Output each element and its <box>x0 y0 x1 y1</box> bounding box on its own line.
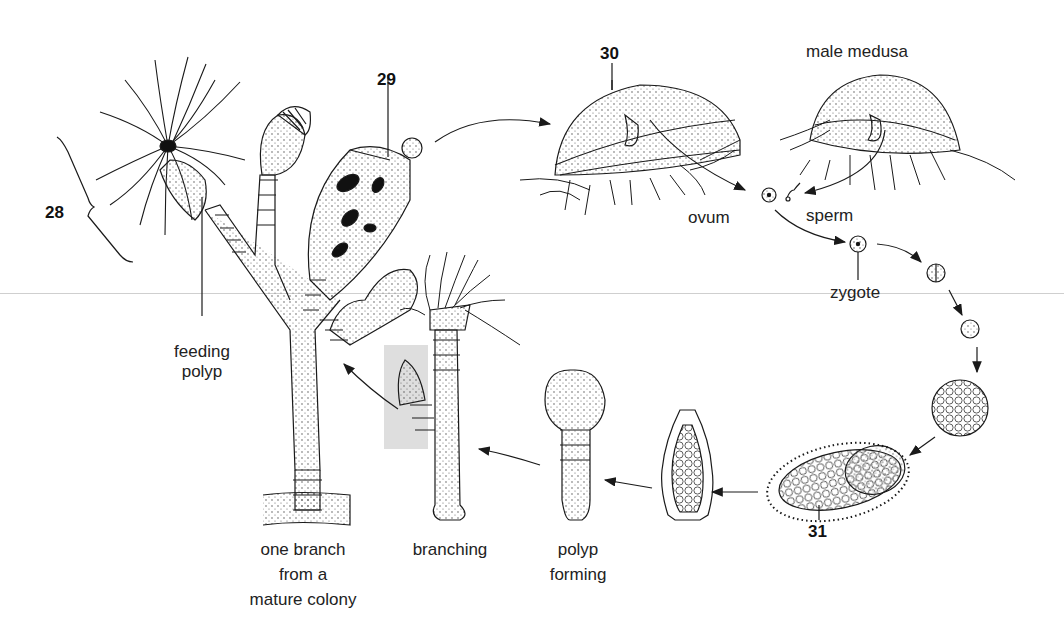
label-zygote: zygote <box>830 283 880 303</box>
planula-larva <box>760 431 916 533</box>
feeding-polyp-line2: polyp <box>166 362 238 382</box>
label-sperm: sperm <box>806 206 853 226</box>
arrow-to-medusa <box>435 120 550 142</box>
upper-hydrotheca <box>257 107 310 225</box>
bracket-28 <box>57 137 133 262</box>
arrow-to-planula <box>910 437 935 455</box>
label-31: 31 <box>808 522 827 542</box>
label-ovum: ovum <box>688 208 730 228</box>
colony-line3: mature colony <box>238 587 368 612</box>
female-medusa <box>520 63 740 215</box>
label-mature-colony: one branch from a mature colony <box>238 537 368 612</box>
polyp-forming-line1: polyp <box>538 537 618 562</box>
arrow-to-2cell <box>877 244 921 262</box>
settled-larva <box>662 410 713 520</box>
label-feeding-polyp: feeding polyp <box>166 342 238 382</box>
diagram-drawing <box>0 0 1064 642</box>
arrow-to-4cell <box>949 290 962 315</box>
blastula <box>932 380 988 436</box>
arrow-to-colony <box>344 364 398 409</box>
label-28: 28 <box>45 203 64 223</box>
sperm <box>787 183 800 198</box>
label-branching: branching <box>402 537 498 562</box>
label-polyp-forming: polyp forming <box>538 537 618 587</box>
label-male-medusa: male medusa <box>806 42 908 62</box>
male-medusa <box>780 75 1015 190</box>
polyp-forming-line2: forming <box>538 562 618 587</box>
label-30: 30 <box>600 44 619 64</box>
colony-line2: from a <box>238 562 368 587</box>
arrow-to-branching <box>479 449 540 465</box>
hypostome <box>160 140 176 152</box>
arrow-to-polyp-forming <box>605 480 652 488</box>
polyp-forming <box>545 370 605 520</box>
obelia-life-cycle-diagram: 28 29 30 31 male medusa ovum sperm zygot… <box>0 0 1064 642</box>
colony-line1: one branch <box>238 537 368 562</box>
label-29: 29 <box>377 70 396 90</box>
four-cell <box>961 320 979 338</box>
feeding-polyp-line1: feeding <box>166 342 238 362</box>
